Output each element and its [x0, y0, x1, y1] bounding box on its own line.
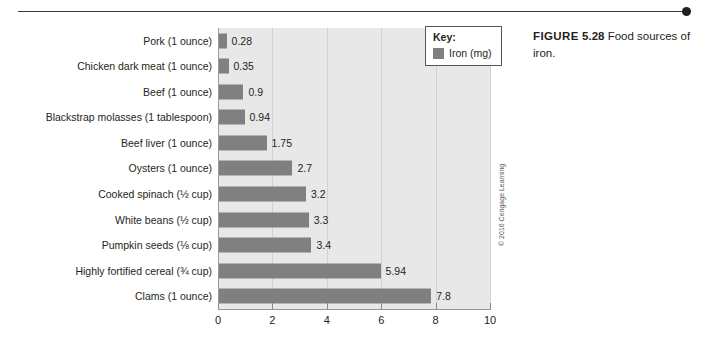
copyright-notice: © 2016 Cengage Learning — [498, 164, 506, 246]
bar — [219, 238, 311, 253]
caption-figure-word: FIGURE — [533, 30, 579, 42]
bar-row: Clams (1 ounce)7.8 — [0, 283, 520, 309]
caption-figure-number: 5.28 — [582, 30, 604, 42]
bar-value-label: 7.8 — [436, 290, 451, 302]
bar — [219, 59, 229, 74]
bar — [219, 187, 306, 202]
x-tick-mark — [327, 303, 328, 310]
legend-title: Key: — [433, 31, 492, 44]
bar-category-label: White beans (½ cup) — [115, 214, 212, 226]
bar — [219, 212, 309, 227]
x-axis-line — [218, 309, 490, 310]
bar-row: Beef liver (1 ounce)1.75 — [0, 130, 520, 156]
x-tick-mark — [272, 303, 273, 310]
x-tick-mark — [218, 303, 219, 310]
x-tick-label: 6 — [378, 314, 384, 327]
bar — [219, 135, 267, 150]
bar-category-label: Highly fortified cereal (¾ cup) — [75, 265, 212, 277]
bar-row: Oysters (1 ounce)2.7 — [0, 156, 520, 182]
bar — [219, 161, 292, 176]
bar-row: Cooked spinach (½ cup)3.2 — [0, 181, 520, 207]
bar-value-label: 3.3 — [314, 214, 329, 226]
bar-category-label: Oysters (1 ounce) — [129, 162, 212, 174]
x-tick-mark — [490, 303, 491, 310]
bar — [219, 84, 243, 99]
bar-value-label: 0.9 — [248, 86, 263, 98]
header-rule-dot — [682, 7, 691, 16]
bar — [219, 289, 431, 304]
bar-value-label: 1.75 — [272, 137, 292, 149]
bar-row: Pumpkin seeds (⅛ cup)3.4 — [0, 232, 520, 258]
bar-category-label: Beef (1 ounce) — [143, 86, 212, 98]
bar — [219, 110, 245, 125]
legend-entry-label: Iron (mg) — [449, 47, 492, 59]
x-tick-label: 8 — [433, 314, 439, 327]
chart-legend: Key: Iron (mg) — [425, 26, 502, 66]
x-tick-label: 4 — [324, 314, 330, 327]
bar-row: Highly fortified cereal (¾ cup)5.94 — [0, 258, 520, 284]
header-rule — [18, 11, 688, 12]
x-tick-label: 2 — [269, 314, 275, 327]
bar-category-label: Clams (1 ounce) — [135, 290, 212, 302]
bar-value-label: 3.2 — [311, 188, 326, 200]
bar-value-label: 0.94 — [250, 111, 270, 123]
bar-category-label: Cooked spinach (½ cup) — [98, 188, 212, 200]
x-tick-label: 0 — [215, 314, 221, 327]
bar-category-label: Beef liver (1 ounce) — [121, 137, 212, 149]
bar-row: Blackstrap molasses (1 tablespoon)0.94 — [0, 105, 520, 131]
bar — [219, 33, 227, 48]
bar-category-label: Pork (1 ounce) — [143, 35, 212, 47]
figure-caption: FIGURE 5.28 Food sources of iron. — [533, 28, 698, 62]
bar — [219, 263, 381, 278]
bar-value-label: 2.7 — [297, 162, 312, 174]
x-tick-mark — [436, 303, 437, 310]
bar-value-label: 0.28 — [232, 35, 252, 47]
bar-row: White beans (½ cup)3.3 — [0, 207, 520, 233]
x-tick-label: 10 — [484, 314, 496, 327]
legend-entry-iron: Iron (mg) — [433, 47, 492, 59]
bar-value-label: 5.94 — [386, 265, 406, 277]
bar-value-label: 0.35 — [234, 60, 254, 72]
bar-value-label: 3.4 — [316, 239, 331, 251]
legend-swatch-icon — [433, 48, 444, 59]
bar-chart: Pork (1 ounce)0.28Chicken dark meat (1 o… — [0, 18, 520, 349]
x-tick-mark — [381, 303, 382, 310]
bar-category-label: Blackstrap molasses (1 tablespoon) — [46, 111, 212, 123]
bar-category-label: Chicken dark meat (1 ounce) — [77, 60, 212, 72]
bar-rows: Pork (1 ounce)0.28Chicken dark meat (1 o… — [0, 28, 520, 309]
bar-category-label: Pumpkin seeds (⅛ cup) — [102, 239, 212, 251]
bar-row: Beef (1 ounce)0.9 — [0, 79, 520, 105]
